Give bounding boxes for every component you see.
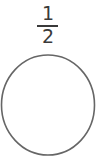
whole-circle	[2, 55, 95, 155]
circle-diagram	[0, 0, 96, 159]
